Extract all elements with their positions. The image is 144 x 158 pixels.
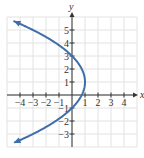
y-tick-label: 1 — [64, 77, 69, 88]
y-tick-label: 5 — [64, 25, 69, 36]
y-tick-label: −3 — [58, 129, 69, 140]
y-tick-label: 2 — [64, 64, 69, 75]
x-tick-label: −3 — [28, 97, 39, 108]
y-axis-label: y — [68, 1, 74, 12]
x-tick-label: −2 — [41, 97, 52, 108]
x-tick-label: 1 — [83, 97, 88, 108]
parabola-graph: −4−3−2−11234−3−2−112345 x y — [0, 0, 144, 158]
x-tick-label: 3 — [109, 97, 114, 108]
x-tick-label: 2 — [96, 97, 101, 108]
x-axis-label: x — [139, 89, 144, 100]
x-tick-label: 4 — [122, 97, 127, 108]
y-tick-label: 4 — [64, 38, 69, 49]
axes — [7, 12, 138, 147]
x-tick-label: −4 — [15, 97, 26, 108]
